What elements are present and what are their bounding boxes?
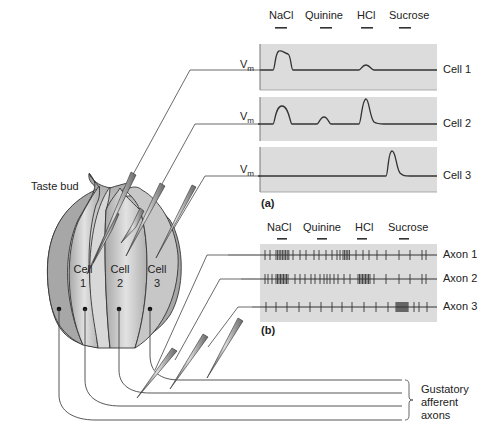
gustatory-afferent-axons-label: Gustatoryafferentaxons bbox=[421, 383, 469, 422]
stimulus-nacl-b: NaCl bbox=[267, 222, 291, 233]
cell-label-3: Cell3 bbox=[142, 262, 172, 290]
cell1-trace-panel bbox=[260, 44, 437, 90]
panel-a-traces bbox=[258, 27, 437, 192]
cell-label-1: Cell1 bbox=[68, 262, 98, 290]
stimulus-bars-a bbox=[275, 27, 411, 29]
taste-bud-label: Taste bud bbox=[31, 181, 79, 192]
vm-label-cell2: Vm bbox=[240, 111, 254, 125]
panel-a-letter: (a) bbox=[261, 198, 274, 209]
cell2-trace-panel bbox=[260, 97, 437, 141]
stimulus-nacl-a: NaCl bbox=[269, 10, 293, 21]
cell-label-2: Cell2 bbox=[105, 262, 135, 290]
stimulus-bars-b bbox=[277, 238, 409, 240]
stimulus-hcl-b: HCl bbox=[355, 222, 373, 233]
axon-label-2: Axon 2 bbox=[443, 273, 477, 284]
cell3-trace-panel bbox=[260, 147, 437, 192]
panel-b-letter: (b) bbox=[261, 325, 275, 336]
axons-brace bbox=[405, 380, 413, 420]
stimulus-quinine-a: Quinine bbox=[305, 10, 343, 21]
vm-label-cell3: Vm bbox=[240, 164, 254, 178]
stimulus-sucrose-b: Sucrose bbox=[388, 222, 428, 233]
trace-label-cell1: Cell 1 bbox=[443, 64, 471, 75]
taste-bud bbox=[47, 173, 181, 348]
stimulus-hcl-a: HCl bbox=[357, 10, 375, 21]
axon-label-1: Axon 1 bbox=[443, 249, 477, 260]
axon-label-3: Axon 3 bbox=[443, 301, 477, 312]
vm-label-cell1: Vm bbox=[240, 59, 254, 73]
panel-b-spikes bbox=[228, 238, 437, 322]
trace-label-cell3: Cell 3 bbox=[443, 170, 471, 181]
trace-label-cell2: Cell 2 bbox=[443, 118, 471, 129]
stimulus-sucrose-a: Sucrose bbox=[389, 10, 429, 21]
stimulus-quinine-b: Quinine bbox=[303, 222, 341, 233]
